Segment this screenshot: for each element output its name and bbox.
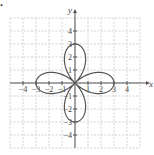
x-tick-label: 4: [125, 85, 129, 94]
y-tick-label: 2: [68, 53, 72, 62]
x-tick-label: −4: [19, 85, 28, 94]
y-axis-label: y: [67, 5, 72, 15]
polar-rose-plot: −4−3−2−11234−4−3−2−11234xy: [0, 0, 154, 155]
y-tick-label: −3: [63, 118, 72, 127]
y-axis-arrow-icon: [73, 9, 77, 13]
y-tick-label: −4: [63, 131, 72, 140]
x-tick-label: 2: [99, 85, 103, 94]
y-tick-label: 4: [68, 27, 72, 36]
x-axis-label: x: [148, 79, 153, 89]
